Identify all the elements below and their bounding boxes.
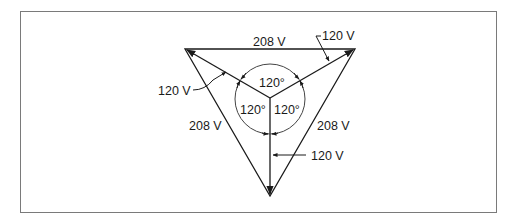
angle-left-label: 120° — [240, 103, 266, 117]
angle-arrow-bottom-right — [272, 133, 278, 134]
phase-voltage-upper-right-label: 120 V — [322, 29, 355, 43]
wye-voltage-diagram: 208 V 208 V 208 V 120 V 120 V 120 V 120°… — [0, 0, 507, 218]
line-voltage-top-label: 208 V — [253, 35, 286, 49]
angle-top-label: 120° — [259, 76, 285, 90]
angle-arrow-top-left — [241, 73, 246, 79]
line-voltage-right-label: 208 V — [317, 119, 350, 133]
line-voltage-left-label: 208 V — [189, 119, 222, 133]
angle-arrow-bottom-left — [262, 133, 268, 134]
angle-arrow-right-upper — [300, 81, 303, 88]
phase-voltage-left-label: 120 V — [158, 84, 191, 98]
angle-arrow-top-right — [294, 73, 299, 79]
leader-left — [193, 72, 226, 90]
phase-voltage-bottom-label: 120 V — [311, 149, 344, 163]
angle-right-label: 120° — [274, 103, 300, 117]
angle-arrow-left-upper — [237, 81, 240, 88]
